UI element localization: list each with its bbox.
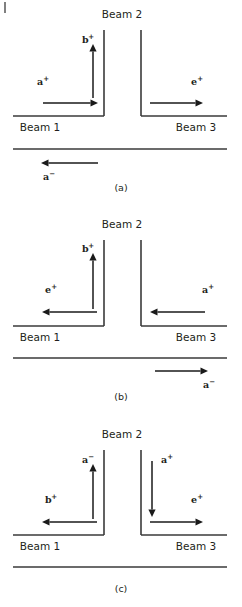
panel-a-beam2-label: Beam 2 <box>102 8 142 20</box>
panel-b-beam2-label: Beam 2 <box>102 218 142 230</box>
mode-label-b-plus-up-superscript: + <box>88 32 94 41</box>
mode-label-a-minus-up-superscript: − <box>88 452 94 461</box>
arrow-head-b-plus-up <box>89 253 96 261</box>
mode-label-e-plus-output: e <box>191 76 197 87</box>
mode-label-a-plus-input-superscript: + <box>43 74 49 83</box>
arrow-a-plus-input <box>43 99 98 106</box>
panel-a-beam3-label: Beam 3 <box>176 121 216 133</box>
panel-b-beam1-label: Beam 1 <box>20 331 60 343</box>
mode-label-a-minus-return-superscript: − <box>49 169 55 178</box>
arrow-b-plus-up <box>89 44 96 98</box>
panel-c-beam3-label: Beam 3 <box>176 540 216 552</box>
arrow-head-e-plus-output-left <box>42 308 50 315</box>
panel-a: Beam 2Beam 1Beam 3a+b+e+a−(a) <box>13 8 227 193</box>
arrow-head-e-plus-output-right <box>196 518 204 525</box>
arrow-b-plus-up <box>89 253 96 309</box>
mode-label-b-plus-output-left-superscript: + <box>51 492 57 501</box>
arrow-a-plus-input-right <box>150 308 205 315</box>
mode-label-a-minus-return-superscript: − <box>209 377 215 386</box>
arrow-head-e-plus-output <box>196 99 204 106</box>
panel-c-caption: (c) <box>115 583 128 594</box>
arrow-head-a-plus-input-right <box>150 308 158 315</box>
arrow-head-b-plus-output-left <box>42 518 50 525</box>
mode-label-e-plus-output-left-superscript: + <box>51 282 57 291</box>
arrow-a-minus-return <box>155 367 208 374</box>
mode-label-e-plus-output-right-superscript: + <box>197 492 203 501</box>
panel-b: Beam 2Beam 1Beam 3b+e+a+a−(b) <box>13 218 227 402</box>
mode-label-e-plus-output-right: e <box>191 494 197 505</box>
panel-a-caption: (a) <box>114 182 127 193</box>
arrow-e-plus-output-left <box>42 308 97 315</box>
panel-c-beam2-label: Beam 2 <box>102 428 142 440</box>
panel-b-beam3-label: Beam 3 <box>176 331 216 343</box>
arrow-a-plus-down <box>148 461 155 517</box>
arrow-head-a-minus-return <box>41 159 49 166</box>
mode-label-a-plus-down-superscript: + <box>167 452 173 461</box>
arrow-b-plus-output-left <box>42 518 97 525</box>
waveguide-junction-figure: Beam 2Beam 1Beam 3a+b+e+a−(a)Beam 2Beam … <box>0 0 242 607</box>
mode-label-a-plus-input-right-superscript: + <box>208 282 214 291</box>
arrow-head-a-minus-return <box>201 367 209 374</box>
figure-container: Beam 2Beam 1Beam 3a+b+e+a−(a)Beam 2Beam … <box>0 0 242 607</box>
arrow-head-b-plus-up <box>89 44 96 52</box>
arrow-e-plus-output <box>150 99 203 106</box>
arrow-head-a-plus-input <box>91 99 99 106</box>
mode-label-b-plus-up-superscript: + <box>88 241 94 250</box>
arrow-a-minus-return <box>41 159 98 166</box>
arrow-a-minus-up <box>89 464 96 519</box>
panel-c: Beam 2Beam 1Beam 3a−b+a+e+(c) <box>13 428 227 594</box>
arrow-e-plus-output-right <box>150 518 203 525</box>
panel-c-beam1-label: Beam 1 <box>20 540 60 552</box>
mode-label-e-plus-output-superscript: + <box>197 74 203 83</box>
mode-label-e-plus-output-left: e <box>45 284 51 295</box>
arrow-head-a-plus-down <box>148 510 155 518</box>
panel-a-beam1-label: Beam 1 <box>20 121 60 133</box>
arrow-head-a-minus-up <box>89 464 96 472</box>
panel-b-caption: (b) <box>114 391 127 402</box>
